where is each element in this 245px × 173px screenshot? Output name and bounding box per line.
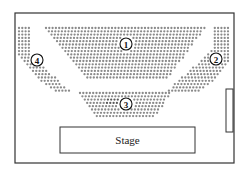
- seat-section-1[interactable]: [83, 53, 85, 55]
- seat-section-4[interactable]: [52, 83, 54, 85]
- seat-section-1[interactable]: [76, 60, 78, 62]
- seat-section-3[interactable]: [144, 108, 146, 110]
- seat-section-3[interactable]: [106, 115, 108, 117]
- seat-section-3[interactable]: [139, 115, 141, 117]
- seat-section-1[interactable]: [106, 57, 108, 59]
- seat-section-1[interactable]: [171, 43, 173, 45]
- seat-section-1[interactable]: [95, 43, 97, 45]
- seat-section-1[interactable]: [70, 33, 72, 35]
- seat-section-2[interactable]: [204, 63, 206, 65]
- seat-section-1[interactable]: [152, 60, 154, 62]
- seat-section-3[interactable]: [94, 98, 96, 100]
- seat-section-1[interactable]: [88, 43, 90, 45]
- seat-section-1[interactable]: [134, 47, 136, 49]
- seat-section-1[interactable]: [150, 70, 152, 72]
- seat-section-2[interactable]: [217, 27, 219, 29]
- seat-section-1[interactable]: [190, 27, 192, 29]
- seat-section-1[interactable]: [159, 73, 161, 75]
- seat-section-2[interactable]: [224, 47, 226, 49]
- seat-section-1[interactable]: [95, 40, 97, 42]
- seat-section-2[interactable]: [220, 40, 222, 42]
- seat-section-1[interactable]: [84, 70, 86, 72]
- seat-section-3[interactable]: [165, 92, 167, 94]
- seat-section-1[interactable]: [80, 33, 82, 35]
- seat-section-3[interactable]: [111, 108, 113, 110]
- section-3-badge[interactable]: 3: [120, 98, 132, 110]
- seat-section-3[interactable]: [115, 92, 117, 94]
- seat-section-3[interactable]: [154, 105, 156, 107]
- seat-section-1[interactable]: [66, 37, 68, 39]
- seat-section-3[interactable]: [158, 105, 160, 107]
- seat-section-3[interactable]: [95, 92, 97, 94]
- seat-section-1[interactable]: [90, 53, 92, 55]
- seat-section-1[interactable]: [108, 43, 110, 45]
- seat-section-2[interactable]: [220, 47, 222, 49]
- seat-section-1[interactable]: [78, 43, 80, 45]
- seat-section-1[interactable]: [120, 70, 122, 72]
- seat-section-1[interactable]: [123, 53, 125, 55]
- seat-section-2[interactable]: [207, 60, 209, 62]
- seat-section-2[interactable]: [176, 86, 178, 88]
- seat-section-2[interactable]: [204, 60, 206, 62]
- seat-section-1[interactable]: [130, 50, 132, 52]
- seat-section-3[interactable]: [137, 108, 139, 110]
- seat-section-1[interactable]: [119, 76, 121, 78]
- seat-section-3[interactable]: [141, 105, 143, 107]
- seat-section-3[interactable]: [93, 112, 95, 114]
- seat-section-1[interactable]: [150, 27, 152, 29]
- seat-section-1[interactable]: [160, 66, 162, 68]
- seat-section-1[interactable]: [76, 37, 78, 39]
- seat-section-1[interactable]: [195, 37, 197, 39]
- seat-section-3[interactable]: [107, 108, 109, 110]
- seat-section-2[interactable]: [204, 57, 206, 59]
- seat-section-1[interactable]: [73, 57, 75, 59]
- seat-section-1[interactable]: [100, 50, 102, 52]
- seat-section-1[interactable]: [67, 53, 69, 55]
- seat-section-1[interactable]: [130, 73, 132, 75]
- seat-section-1[interactable]: [167, 66, 169, 68]
- seat-section-1[interactable]: [87, 50, 89, 52]
- seat-section-4[interactable]: [21, 40, 23, 42]
- seat-section-4[interactable]: [18, 33, 20, 35]
- seat-section-1[interactable]: [192, 37, 194, 39]
- seat-section-1[interactable]: [71, 27, 73, 29]
- seat-section-2[interactable]: [224, 40, 226, 42]
- seat-section-2[interactable]: [188, 90, 190, 92]
- seat-section-2[interactable]: [192, 86, 194, 88]
- seat-section-1[interactable]: [156, 73, 158, 75]
- seat-section-2[interactable]: [224, 33, 226, 35]
- seat-section-3[interactable]: [153, 112, 155, 114]
- seat-section-1[interactable]: [147, 27, 149, 29]
- seat-section-3[interactable]: [141, 95, 143, 97]
- seat-section-1[interactable]: [136, 33, 138, 35]
- seat-section-1[interactable]: [60, 37, 62, 39]
- seat-section-3[interactable]: [160, 95, 162, 97]
- seat-section-3[interactable]: [108, 105, 110, 107]
- seat-section-2[interactable]: [216, 73, 218, 75]
- seat-section-1[interactable]: [93, 53, 95, 55]
- seat-section-1[interactable]: [59, 40, 61, 42]
- seat-section-1[interactable]: [161, 60, 163, 62]
- seat-section-3[interactable]: [98, 95, 100, 97]
- seat-section-2[interactable]: [214, 33, 216, 35]
- seat-section-1[interactable]: [126, 73, 128, 75]
- seat-section-1[interactable]: [73, 37, 75, 39]
- seat-section-3[interactable]: [120, 112, 122, 114]
- seat-section-4[interactable]: [21, 57, 23, 59]
- seat-section-3[interactable]: [109, 92, 111, 94]
- seat-section-1[interactable]: [54, 30, 56, 32]
- seat-section-2[interactable]: [214, 43, 216, 45]
- seat-section-3[interactable]: [124, 95, 126, 97]
- seat-section-1[interactable]: [139, 37, 141, 39]
- seat-section-1[interactable]: [116, 37, 118, 39]
- seat-section-2[interactable]: [177, 83, 179, 85]
- seat-section-1[interactable]: [173, 30, 175, 32]
- seat-section-1[interactable]: [154, 47, 156, 49]
- seat-section-1[interactable]: [75, 47, 77, 49]
- seat-section-1[interactable]: [137, 27, 139, 29]
- seat-section-1[interactable]: [199, 33, 201, 35]
- seat-section-3[interactable]: [143, 112, 145, 114]
- seat-section-1[interactable]: [82, 40, 84, 42]
- seat-section-1[interactable]: [169, 53, 171, 55]
- seat-section-1[interactable]: [94, 30, 96, 32]
